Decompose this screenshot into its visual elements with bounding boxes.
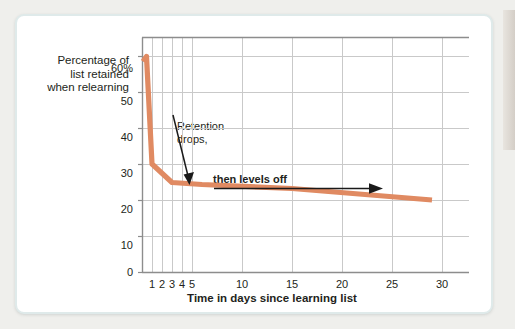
forgetting-curve-chart: Percentage of list retained when relearn… <box>17 16 495 316</box>
plot-axes <box>142 38 469 273</box>
page-edge-shadow <box>503 10 515 150</box>
retention-drops-arrow <box>173 115 194 185</box>
plot-svg <box>17 16 495 316</box>
grid-lines-horizontal <box>142 57 469 237</box>
figure-card: Percentage of list retained when relearn… <box>15 14 493 314</box>
y-axis-ticks <box>138 57 142 273</box>
